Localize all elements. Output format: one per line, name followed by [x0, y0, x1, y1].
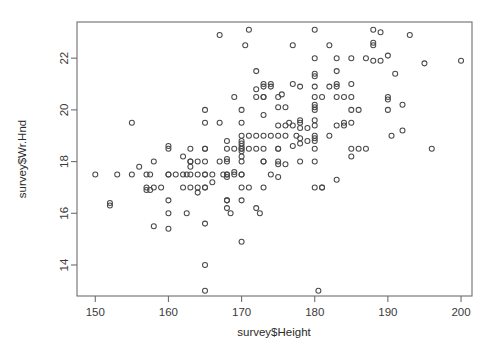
x-tick-label: 190	[378, 306, 397, 318]
x-tick-label: 150	[86, 306, 105, 318]
y-tick-label: 20	[58, 103, 70, 116]
x-tick-label: 200	[451, 306, 470, 318]
figure-background	[0, 0, 494, 353]
x-tick-label: 160	[159, 306, 178, 318]
y-axis-title: survey$Wr.Hnd	[16, 120, 28, 198]
y-tick-label: 18	[58, 155, 70, 168]
x-tick-label: 180	[305, 306, 324, 318]
y-tick-label: 14	[58, 258, 70, 271]
y-tick-label: 16	[58, 207, 70, 220]
scatter-plot-figure: 150160170180190200 1416182022 survey$Hei…	[0, 0, 494, 353]
x-axis-title: survey$Height	[237, 326, 311, 338]
x-tick-label: 170	[232, 306, 251, 318]
y-tick-label: 22	[58, 52, 70, 65]
plot-canvas: 150160170180190200 1416182022 survey$Hei…	[0, 0, 494, 353]
